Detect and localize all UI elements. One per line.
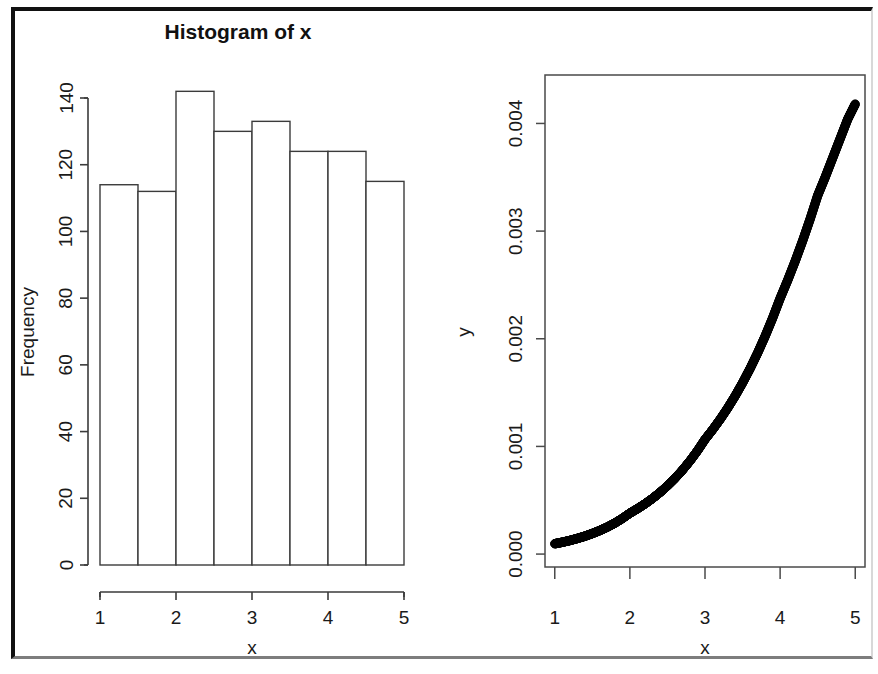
histogram-y-tickmarks [80,98,88,565]
histogram-panel: Histogram of x 020406080100120140 Freque… [0,0,439,674]
histogram-bar [100,185,138,565]
scatter-y-tick-label: 0.004 [506,99,527,147]
scatter-x-tick-label: 5 [850,607,861,628]
scatter-x-axis-label: x [700,637,710,658]
histogram-y-tick-label: 20 [56,488,77,509]
scatter-x-tickmarks [555,567,855,579]
histogram-bar [328,151,366,565]
histogram-x-tick-label: 1 [95,607,106,628]
histogram-y-tick-label: 140 [56,82,77,114]
scatter-x-tick-label: 2 [625,607,636,628]
histogram-y-tick-label: 60 [56,354,77,375]
histogram-y-tick-label: 80 [56,288,77,309]
scatter-y-tickmarks [536,123,545,554]
histogram-x-tick-labels: 12345 [95,607,410,628]
histogram-plot: Histogram of x 020406080100120140 Freque… [0,0,439,674]
histogram-title: Histogram of x [164,20,311,43]
histogram-y-tick-label: 40 [56,421,77,442]
scatter-x-tick-label: 4 [775,607,786,628]
figure-root: Histogram of x 020406080100120140 Freque… [0,0,878,674]
scatter-y-axis-label: y [453,327,474,337]
histogram-bar [176,91,214,565]
histogram-y-tick-label: 100 [56,216,77,248]
scatter-x-tick-label: 1 [549,607,560,628]
histogram-bar [366,181,404,565]
histogram-bar [290,151,328,565]
histogram-y-tick-label: 120 [56,149,77,181]
histogram-y-axis-label: Frequency [17,287,38,377]
histogram-x-tick-label: 5 [399,607,410,628]
scatter-y-tick-labels: 0.0000.0010.0020.0030.004 [506,99,527,578]
histogram-bars [100,91,404,565]
scatter-point [851,100,859,108]
histogram-bar [252,121,290,565]
histogram-y-tick-label: 0 [56,560,77,571]
histogram-bar [138,191,176,565]
histogram-bar [214,131,252,565]
histogram-x-axis-label: x [247,637,257,658]
histogram-x-tick-label: 4 [323,607,334,628]
scatter-y-tick-label: 0.002 [506,315,527,363]
scatter-y-tick-label: 0.000 [506,530,527,578]
histogram-x-tickmarks [100,592,404,600]
histogram-x-tick-label: 2 [171,607,182,628]
scatter-y-tick-label: 0.003 [506,207,527,255]
scatter-panel: 0.0000.0010.0020.0030.004 y 12345 x [439,0,878,674]
scatter-x-tick-label: 3 [700,607,711,628]
scatter-x-tick-labels: 12345 [549,607,860,628]
scatter-plot: 0.0000.0010.0020.0030.004 y 12345 x [439,0,878,674]
histogram-y-tick-labels: 020406080100120140 [56,82,77,570]
histogram-y-axis [80,98,88,565]
histogram-x-tick-label: 3 [247,607,258,628]
scatter-data-points [551,100,860,548]
scatter-plot-box [545,75,865,567]
scatter-y-tick-label: 0.001 [506,423,527,471]
histogram-x-axis [100,592,404,600]
